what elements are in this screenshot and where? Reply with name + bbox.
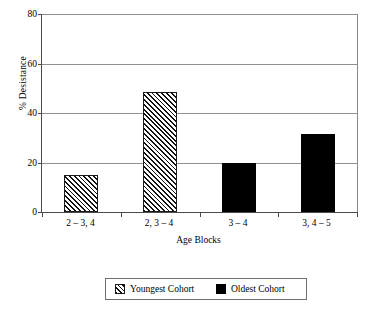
bar-slot-4 <box>278 14 357 212</box>
x-tick-label-3: 3 – 4 <box>195 218 281 228</box>
bar-oldest-3-4[interactable] <box>222 163 256 213</box>
chart-legend: Youngest Cohort Oldest Cohort <box>105 278 307 300</box>
bar-youngest-2-3dash4[interactable] <box>143 92 177 212</box>
bar-slot-2 <box>121 14 200 212</box>
y-axis-title: % Desistance <box>18 28 28 138</box>
bar-slot-3 <box>200 14 279 212</box>
legend-swatch-hatch-icon <box>115 284 125 294</box>
legend-swatch-solid-icon <box>216 284 226 294</box>
bar-youngest-2-3-4[interactable] <box>64 175 98 212</box>
bar-slot-1 <box>42 14 121 212</box>
x-tick-mark-4 <box>357 212 358 217</box>
x-tick-label-1: 2 – 3, 4 <box>37 218 123 228</box>
x-tick-label-2: 2, 3 – 4 <box>116 218 202 228</box>
bar-oldest-3-4-5[interactable] <box>301 134 335 212</box>
bar-chart-figure: % Desistance 80 60 40 20 0 <box>0 0 382 318</box>
y-tick-label-60: 60 <box>3 59 37 69</box>
x-axis-title: Age Blocks <box>41 235 356 245</box>
x-tick-mark-0 <box>42 212 43 217</box>
x-tick-mark-3 <box>278 212 279 217</box>
y-tick-label-20: 20 <box>3 158 37 168</box>
x-tick-mark-2 <box>200 212 201 217</box>
y-tick-label-80: 80 <box>3 9 37 19</box>
legend-label-oldest-cohort: Oldest Cohort <box>231 284 285 294</box>
plot-area <box>41 14 358 212</box>
legend-entry-oldest-cohort[interactable]: Oldest Cohort <box>216 284 285 294</box>
legend-label-youngest-cohort: Youngest Cohort <box>130 284 194 294</box>
x-tick-label-4: 3, 4 – 5 <box>274 218 360 228</box>
bar-group <box>42 14 357 212</box>
y-tick-label-0: 0 <box>3 207 37 217</box>
legend-entry-youngest-cohort[interactable]: Youngest Cohort <box>115 284 194 294</box>
y-tick-label-40: 40 <box>3 108 37 118</box>
x-tick-mark-1 <box>121 212 122 217</box>
